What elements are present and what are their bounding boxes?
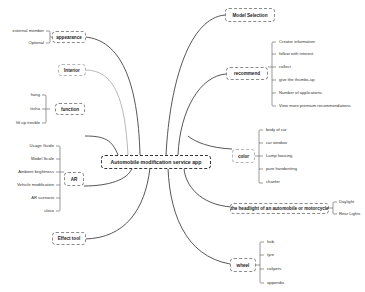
leaf-tiisha: tiisha xyxy=(2,106,40,112)
leaf-calipers: calipers xyxy=(267,266,281,272)
leaf-chanfer: chanfer xyxy=(266,179,280,185)
leaf-rear-lights: Rear Lights xyxy=(339,211,360,217)
leaf-usage-guide: Usage Guide xyxy=(2,143,54,149)
leaf-model-scale: Model Scale xyxy=(2,156,54,162)
branch-ar[interactable]: AR xyxy=(64,172,84,186)
branch-function[interactable]: function xyxy=(55,103,85,115)
leaf-view-more-recommendations: View more premium recommendations xyxy=(279,103,351,109)
leaf-close: close xyxy=(2,208,54,214)
branch-appearance[interactable]: appearance xyxy=(52,31,86,43)
branch-model-selection[interactable]: Model Selection xyxy=(225,8,275,22)
leaf-tyre: tyre xyxy=(267,252,274,258)
branch-effect-tool[interactable]: Effect tool xyxy=(52,232,86,245)
leaf-ar-scenario: AR scenario xyxy=(2,195,54,201)
leaf-ambient-brightness: Ambient brightness xyxy=(2,169,54,175)
branch-color[interactable]: color xyxy=(232,149,255,163)
branch-interior[interactable]: Interior xyxy=(58,64,86,76)
leaf-vehicle-modification: Vehicle modification xyxy=(2,182,54,188)
leaf-body-of-car: body of car xyxy=(266,127,287,133)
leaf-follow-with-interest: follow with interest xyxy=(279,51,313,57)
leaf-appendix: appendix xyxy=(267,280,284,286)
leaf-optional: Optional xyxy=(2,40,44,46)
leaf-give-thumbs-up: give the thumbs-up xyxy=(279,77,315,83)
branch-recommend[interactable]: recommend xyxy=(226,67,268,80)
root-node[interactable]: Automobile modification service app xyxy=(101,155,211,169)
leaf-pure-handwriting: pure handwriting xyxy=(266,166,297,172)
leaf-lamp-housing: Lamp housing xyxy=(266,153,292,159)
leaf-number-of-applications: Number of applications xyxy=(279,90,322,96)
branch-headlight[interactable]: the headlight of an automobile or motorc… xyxy=(230,203,329,214)
leaf-hub: hub xyxy=(267,239,274,245)
leaf-lift-up-trouble: lift up trouble xyxy=(2,120,40,126)
leaf-hang: hang xyxy=(2,92,40,98)
branch-wheel[interactable]: wheel xyxy=(230,258,256,272)
leaf-collect: collect xyxy=(279,64,291,70)
leaf-car-window: car window xyxy=(266,140,287,146)
leaf-external-member: external member xyxy=(2,28,44,34)
leaf-creator-information: Creator information xyxy=(279,39,315,45)
leaf-daylight: Daylight xyxy=(339,199,354,205)
